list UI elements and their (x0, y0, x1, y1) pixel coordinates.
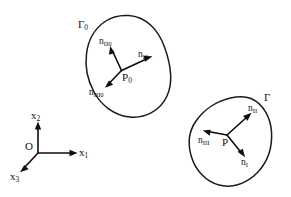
vector-n-III-arrowhead (203, 130, 211, 136)
vector-n-III0-label: nIII0 (89, 88, 104, 98)
axis-x2-label: x2 (31, 110, 40, 121)
vector-n-II0-shaft (113, 51, 122, 71)
vector-n-I-shaft (227, 135, 242, 153)
reference-boundary-label: Γ0 (78, 19, 88, 30)
reference-point-label: P0 (122, 72, 132, 83)
vector-n-II-label: nII (248, 104, 257, 114)
vector-n-II0-label: nII0 (99, 37, 111, 47)
axis-x3-label: x3 (10, 171, 19, 182)
reference-body-boundary (86, 15, 171, 117)
axis-x3-arrowhead (20, 165, 29, 172)
axis-x1-label: x1 (79, 147, 88, 158)
vector-n-III0-arrowhead (105, 81, 113, 88)
vector-n-III0-shaft (109, 71, 122, 85)
axis-origin-label: O (25, 141, 33, 152)
vector-n-I0-label: nI0 (138, 50, 148, 60)
axis-x1-arrowhead (70, 150, 78, 156)
vector-n-I0-shaft (122, 59, 148, 71)
current-boundary-label: Γ (264, 92, 270, 103)
vector-n-III-shaft (208, 132, 227, 136)
vector-n-II-shaft (227, 117, 248, 136)
vector-n-III-label: nIII (198, 136, 209, 146)
figure-canvas: Γ0 P0 nI0 nII0 nIII0 Γ P nII nIII nI O x… (0, 0, 291, 197)
current-point-label: P (222, 137, 228, 148)
axis-x3-shaft (24, 153, 38, 168)
vector-n-I-label: nI (241, 158, 248, 168)
